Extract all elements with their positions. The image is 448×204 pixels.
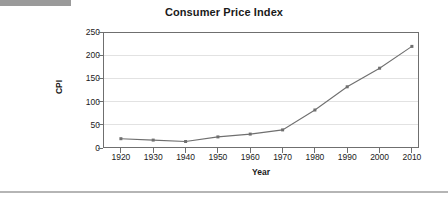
series-marker	[249, 133, 252, 136]
x-tick-label: 2010	[392, 152, 432, 162]
series-marker	[152, 139, 155, 142]
series-marker	[119, 137, 122, 140]
series-line-cpi	[121, 46, 412, 141]
series-marker	[313, 109, 316, 112]
series-marker	[410, 45, 413, 48]
y-axis-ticks	[98, 32, 103, 148]
footer-rule	[0, 191, 448, 193]
x-axis-title: Year	[103, 167, 419, 177]
series-marker	[184, 140, 187, 143]
series-marker	[216, 135, 219, 138]
gridlines	[104, 55, 418, 125]
series-marker	[346, 85, 349, 88]
series-marker	[378, 67, 381, 70]
chart-page: Consumer Price Index 250 200 150 100 50 …	[0, 0, 448, 204]
series-markers-cpi	[119, 45, 413, 143]
series-marker	[281, 128, 284, 131]
